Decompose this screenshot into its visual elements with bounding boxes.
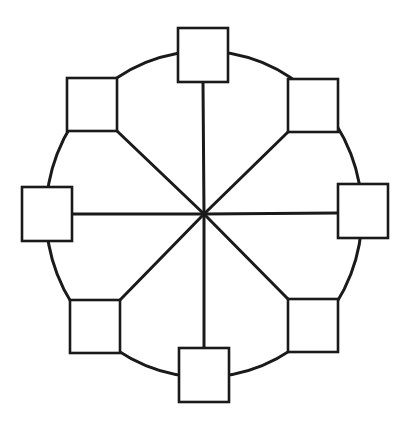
node-upper-right bbox=[288, 79, 338, 132]
node-right bbox=[338, 184, 388, 238]
spoke-to-node-upper-left bbox=[117, 131, 204, 214]
node-lower-left bbox=[70, 300, 120, 353]
node-left bbox=[22, 187, 72, 241]
spoke-to-node-lower-left bbox=[120, 214, 204, 300]
spoke-to-node-top bbox=[203, 82, 204, 214]
node-top bbox=[178, 28, 228, 82]
spoke-to-node-right bbox=[204, 213, 338, 214]
spoke-to-node-upper-right bbox=[204, 132, 288, 214]
node-bottom bbox=[179, 348, 229, 402]
node-upper-left bbox=[67, 78, 117, 131]
node-lower-right bbox=[288, 299, 338, 352]
network-topology-diagram bbox=[0, 0, 408, 429]
spoke-to-node-lower-right bbox=[204, 214, 288, 299]
